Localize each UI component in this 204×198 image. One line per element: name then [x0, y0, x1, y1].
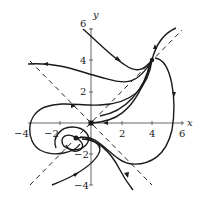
- critical-point-origin: [89, 121, 94, 126]
- x-tick-label: 2: [119, 128, 125, 139]
- arrow-icon: [172, 92, 176, 97]
- y-tick-label: −4: [74, 180, 89, 191]
- trajectory-bottom-left: [52, 139, 100, 185]
- arrow-icon: [115, 56, 121, 61]
- critical-point-node: [150, 58, 154, 62]
- trajectory-upper-right: [152, 28, 176, 60]
- trajectory-fan-1: [100, 62, 150, 116]
- trajectory-top: [83, 29, 152, 70]
- trajectories: [28, 28, 176, 190]
- critical-point-spiral: [74, 136, 79, 141]
- trajectory-spiral-inner: [55, 127, 89, 150]
- x-tick-label: 4: [149, 128, 155, 139]
- x-tick-label: −4: [14, 128, 29, 139]
- phase-portrait-figure: −4 −2 2 4 6 6 4 2 −2 −4 x y: [0, 0, 204, 198]
- y-axis-label: y: [92, 9, 99, 20]
- y-tick-label: 6: [80, 18, 86, 29]
- x-axis-label: x: [187, 117, 193, 128]
- x-tick-label: 6: [179, 128, 185, 139]
- y-tick-label: 4: [80, 55, 86, 66]
- line-y-equals-x: [30, 30, 182, 185]
- arrow-icon: [43, 62, 48, 66]
- arrow-icon: [73, 172, 79, 177]
- trajectory-right-loop: [78, 58, 174, 164]
- y-tick-label: 2: [80, 86, 86, 97]
- phase-portrait-svg: −4 −2 2 4 6 6 4 2 −2 −4 x y: [0, 0, 204, 198]
